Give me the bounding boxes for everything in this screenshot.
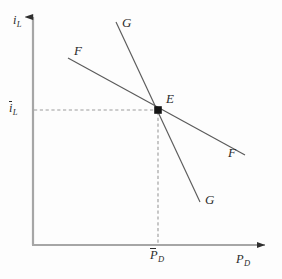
y-tick-overbar [9,101,12,102]
y-tick-overbar-wrap: i [9,101,12,115]
curve-G-label-start: G [122,16,132,29]
y-tick-label-sub: L [13,107,18,117]
x-tick-label-main: P [150,248,158,262]
x-tick-label: PD [150,248,164,263]
equilibrium-diagram: iL iL PD PD F F G G E [0,0,282,279]
curve-F-label-end: F [228,146,236,159]
x-axis-label: PD [236,253,250,267]
plot-canvas [0,0,282,279]
x-axis-label-sub: D [244,258,250,268]
y-axis-label-sub: L [17,19,22,29]
x-tick-overbar-wrap: P [150,248,158,262]
equilibrium-point-label: E [166,92,174,105]
y-tick-label-main: i [9,101,12,115]
curve-F-label-start: F [74,44,82,57]
y-axis-label-main: i [13,13,16,27]
equilibrium-point-marker [154,106,162,114]
y-tick-label: iL [9,101,18,116]
x-tick-label-sub: D [158,254,164,264]
curve-G-label-end: G [205,193,215,206]
y-axis-label: iL [13,14,22,28]
x-tick-overbar [150,248,156,249]
x-axis-label-main: P [236,252,244,266]
